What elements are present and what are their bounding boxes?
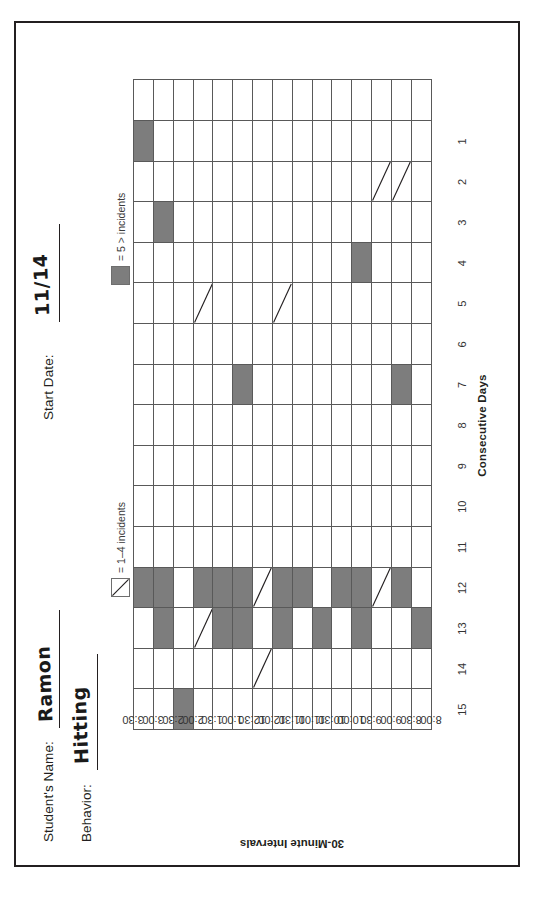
grid-cell[interactable] bbox=[153, 527, 173, 568]
grid-cell[interactable] bbox=[153, 445, 173, 486]
grid-cell[interactable] bbox=[372, 648, 392, 689]
grid-cell[interactable] bbox=[153, 324, 173, 365]
grid-cell[interactable] bbox=[253, 567, 273, 608]
grid-cell[interactable] bbox=[332, 161, 352, 202]
grid-cell[interactable] bbox=[292, 405, 312, 446]
grid-cell[interactable] bbox=[153, 405, 173, 446]
grid-cell[interactable] bbox=[213, 527, 233, 568]
grid-cell[interactable] bbox=[153, 283, 173, 324]
grid-cell[interactable] bbox=[411, 202, 431, 243]
grid-cell[interactable] bbox=[332, 527, 352, 568]
grid-cell[interactable] bbox=[173, 364, 193, 405]
grid-cell[interactable] bbox=[312, 80, 332, 121]
grid-cell[interactable] bbox=[193, 486, 213, 527]
grid-cell[interactable] bbox=[213, 80, 233, 121]
grid-cell[interactable] bbox=[292, 567, 312, 608]
grid-cell[interactable] bbox=[153, 242, 173, 283]
grid-cell[interactable] bbox=[213, 161, 233, 202]
grid-cell[interactable] bbox=[153, 364, 173, 405]
grid-cell[interactable] bbox=[312, 121, 332, 162]
grid-cell[interactable] bbox=[272, 283, 292, 324]
grid-cell[interactable] bbox=[372, 242, 392, 283]
grid-cell[interactable] bbox=[391, 445, 411, 486]
grid-cell[interactable] bbox=[391, 324, 411, 365]
grid-cell[interactable] bbox=[312, 242, 332, 283]
grid-cell[interactable] bbox=[153, 161, 173, 202]
grid-cell[interactable] bbox=[332, 80, 352, 121]
grid-cell[interactable] bbox=[193, 364, 213, 405]
grid-cell[interactable] bbox=[391, 608, 411, 649]
grid-cell[interactable] bbox=[173, 648, 193, 689]
grid-cell[interactable] bbox=[153, 567, 173, 608]
grid-cell[interactable] bbox=[312, 648, 332, 689]
grid-cell[interactable] bbox=[352, 80, 372, 121]
grid-cell[interactable] bbox=[332, 121, 352, 162]
grid-cell[interactable] bbox=[134, 567, 154, 608]
grid-cell[interactable] bbox=[312, 202, 332, 243]
grid-cell[interactable] bbox=[391, 80, 411, 121]
grid-cell[interactable] bbox=[134, 364, 154, 405]
grid-cell[interactable] bbox=[213, 121, 233, 162]
grid-cell[interactable] bbox=[292, 608, 312, 649]
grid-cell[interactable] bbox=[253, 202, 273, 243]
grid-cell[interactable] bbox=[233, 202, 253, 243]
grid-cell[interactable] bbox=[233, 121, 253, 162]
grid-cell[interactable] bbox=[173, 121, 193, 162]
grid-cell[interactable] bbox=[292, 80, 312, 121]
grid-cell[interactable] bbox=[233, 283, 253, 324]
grid-cell[interactable] bbox=[292, 527, 312, 568]
grid-cell[interactable] bbox=[372, 283, 392, 324]
grid-cell[interactable] bbox=[253, 364, 273, 405]
grid-cell[interactable] bbox=[134, 80, 154, 121]
grid-cell[interactable] bbox=[372, 161, 392, 202]
grid-cell[interactable] bbox=[193, 202, 213, 243]
grid-cell[interactable] bbox=[352, 202, 372, 243]
grid-cell[interactable] bbox=[332, 324, 352, 365]
grid-cell[interactable] bbox=[253, 80, 273, 121]
grid-cell[interactable] bbox=[352, 608, 372, 649]
grid-cell[interactable] bbox=[193, 283, 213, 324]
grid-cell[interactable] bbox=[213, 608, 233, 649]
grid-cell[interactable] bbox=[312, 608, 332, 649]
grid-cell[interactable] bbox=[233, 80, 253, 121]
grid-cell[interactable] bbox=[411, 161, 431, 202]
grid-cell[interactable] bbox=[253, 161, 273, 202]
grid-cell[interactable] bbox=[372, 527, 392, 568]
grid-cell[interactable] bbox=[193, 648, 213, 689]
grid-cell[interactable] bbox=[253, 486, 273, 527]
grid-cell[interactable] bbox=[272, 161, 292, 202]
grid-cell[interactable] bbox=[352, 405, 372, 446]
grid-cell[interactable] bbox=[233, 161, 253, 202]
grid-cell[interactable] bbox=[153, 648, 173, 689]
grid-cell[interactable] bbox=[292, 161, 312, 202]
grid-cell[interactable] bbox=[233, 324, 253, 365]
grid-cell[interactable] bbox=[253, 324, 273, 365]
grid-cell[interactable] bbox=[391, 405, 411, 446]
grid-cell[interactable] bbox=[213, 567, 233, 608]
grid-cell[interactable] bbox=[391, 202, 411, 243]
grid-cell[interactable] bbox=[372, 324, 392, 365]
grid-cell[interactable] bbox=[233, 405, 253, 446]
grid-cell[interactable] bbox=[153, 121, 173, 162]
grid-cell[interactable] bbox=[253, 283, 273, 324]
grid-cell[interactable] bbox=[292, 648, 312, 689]
grid-cell[interactable] bbox=[134, 121, 154, 162]
grid-cell[interactable] bbox=[272, 527, 292, 568]
grid-cell[interactable] bbox=[272, 242, 292, 283]
grid-cell[interactable] bbox=[411, 283, 431, 324]
grid-cell[interactable] bbox=[213, 445, 233, 486]
grid-cell[interactable] bbox=[213, 324, 233, 365]
grid-cell[interactable] bbox=[213, 364, 233, 405]
grid-cell[interactable] bbox=[134, 648, 154, 689]
grid-cell[interactable] bbox=[391, 242, 411, 283]
grid-cell[interactable] bbox=[352, 364, 372, 405]
grid-cell[interactable] bbox=[292, 445, 312, 486]
grid-cell[interactable] bbox=[292, 486, 312, 527]
grid-cell[interactable] bbox=[312, 567, 332, 608]
grid-cell[interactable] bbox=[173, 161, 193, 202]
grid-cell[interactable] bbox=[332, 567, 352, 608]
grid-cell[interactable] bbox=[292, 121, 312, 162]
grid-cell[interactable] bbox=[391, 364, 411, 405]
grid-cell[interactable] bbox=[253, 608, 273, 649]
grid-cell[interactable] bbox=[173, 80, 193, 121]
